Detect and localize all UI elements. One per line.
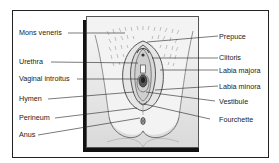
label-urethra: Urethra [19, 58, 43, 66]
label-vestibule: Vestibule [219, 98, 248, 106]
label-anus: Anus [19, 131, 35, 139]
anatomy-illustration [87, 17, 199, 148]
label-prepuce: Prepuce [219, 33, 246, 41]
label-vaginal-introitus: Vaginal introitus [19, 75, 70, 83]
label-clitoris: Clitoris [219, 54, 241, 62]
label-labia-majora: Labia majora [219, 67, 261, 75]
panel-shadow [83, 148, 199, 152]
label-mons-veneris: Mons veneris [19, 29, 62, 37]
label-hymen: Hymen [19, 95, 42, 103]
label-perineum: Perineum [19, 114, 50, 122]
label-fourchette: Fourchette [219, 116, 253, 124]
illustration-panel [86, 16, 199, 148]
label-labia-minora: Labia minora [219, 83, 261, 91]
